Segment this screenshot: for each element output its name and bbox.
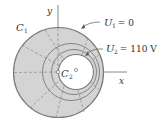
c2-subscript: 2 — [69, 73, 73, 80]
center-c1-marker — [56, 70, 59, 73]
equipotential-diagram: y x C 1 C 2 U 1 = 0 U 2 = 110 V — [0, 0, 159, 123]
center-c2-marker — [74, 68, 77, 71]
u2-value: = 110 V — [117, 44, 157, 54]
c1-subscript: 1 — [24, 27, 28, 34]
c1-label: C — [16, 22, 24, 33]
c2-label: C — [61, 68, 69, 79]
u1-arrowhead — [81, 24, 85, 29]
u1-value: = 0 — [115, 18, 134, 28]
y-axis-label: y — [46, 6, 53, 16]
x-axis-label: x — [119, 76, 124, 86]
